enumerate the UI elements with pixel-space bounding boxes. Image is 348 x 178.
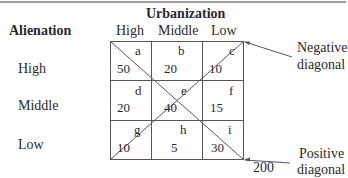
cell-letter-c: c xyxy=(229,43,235,59)
cell-value-i: 30 xyxy=(211,140,224,156)
cell-value-f: 15 xyxy=(210,100,223,116)
cell-letter-g: g xyxy=(134,122,141,138)
cell-value-a: 50 xyxy=(117,61,130,77)
cell-value-c: 10 xyxy=(209,61,222,77)
positive-diagonal-label-line2: diagonal xyxy=(297,162,345,178)
cell-letter-d: d xyxy=(135,83,142,99)
negative-arrow-line xyxy=(245,42,292,57)
cell-value-d: 20 xyxy=(117,100,130,116)
negative-diagonal-label-line2: diagonal xyxy=(297,57,345,73)
cell-value-h: 5 xyxy=(171,140,178,156)
positive-arrowhead-icon xyxy=(244,158,250,162)
positive-diagonal-label-line1: Positive xyxy=(299,146,344,162)
cell-value-b: 20 xyxy=(164,61,177,77)
grand-total: 200 xyxy=(253,160,274,176)
cell-letter-a: a xyxy=(135,43,141,59)
cell-letter-i: i xyxy=(228,122,232,138)
cell-value-e: 40 xyxy=(164,100,177,116)
cell-letter-f: f xyxy=(229,83,233,99)
negative-diagonal-label-line1: Negative xyxy=(297,40,348,56)
negative-arrowhead-icon xyxy=(244,42,250,46)
cell-letter-e: e xyxy=(181,83,187,99)
cell-value-g: 10 xyxy=(117,140,130,156)
cell-letter-h: h xyxy=(180,122,187,138)
cell-letter-b: b xyxy=(178,43,185,59)
